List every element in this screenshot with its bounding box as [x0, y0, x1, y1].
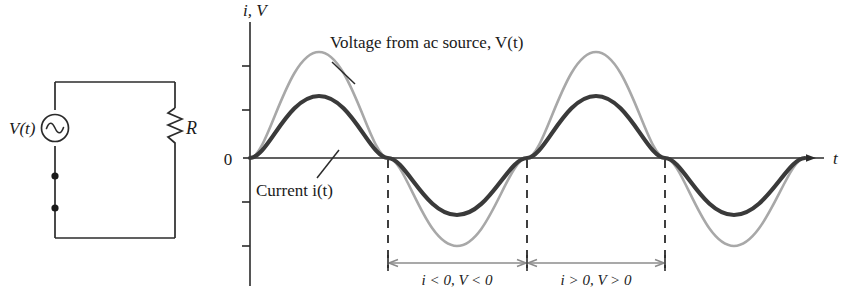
region-label-negative: i < 0, V < 0: [422, 272, 493, 288]
waveform-graph: i, V 0 t Voltage from ac source, V(t) Cu…: [224, 1, 839, 288]
x-axis-label: t: [833, 149, 839, 168]
dashed-guides: [388, 160, 665, 268]
ac-resistor-circuit-figure: V(t) R i, V 0 t: [0, 0, 852, 305]
resistor-icon: [168, 108, 182, 148]
terminal-dot-upper: [51, 172, 58, 179]
region-span-positive: [528, 260, 664, 267]
region-span-negative: [389, 260, 526, 267]
current-curve-label: Current i(t): [256, 181, 333, 200]
ac-source-icon: [42, 115, 69, 142]
voltage-curve: [250, 52, 805, 246]
terminal-dot-lower: [51, 204, 58, 211]
resistor-label: R: [185, 118, 197, 138]
x-axis-arrowhead: [806, 154, 816, 162]
source-voltage-label: V(t): [9, 119, 36, 138]
voltage-curve-label: Voltage from ac source, V(t): [330, 33, 523, 52]
current-label-leader: [317, 150, 339, 178]
y-axis-label: i, V: [243, 1, 269, 20]
voltage-label-leader: [332, 62, 355, 84]
region-label-positive: i > 0, V > 0: [561, 272, 632, 288]
circuit-wires: [55, 82, 175, 238]
y-axis: [242, 22, 250, 286]
circuit-diagram: V(t) R: [9, 82, 197, 238]
origin-label: 0: [224, 150, 233, 169]
